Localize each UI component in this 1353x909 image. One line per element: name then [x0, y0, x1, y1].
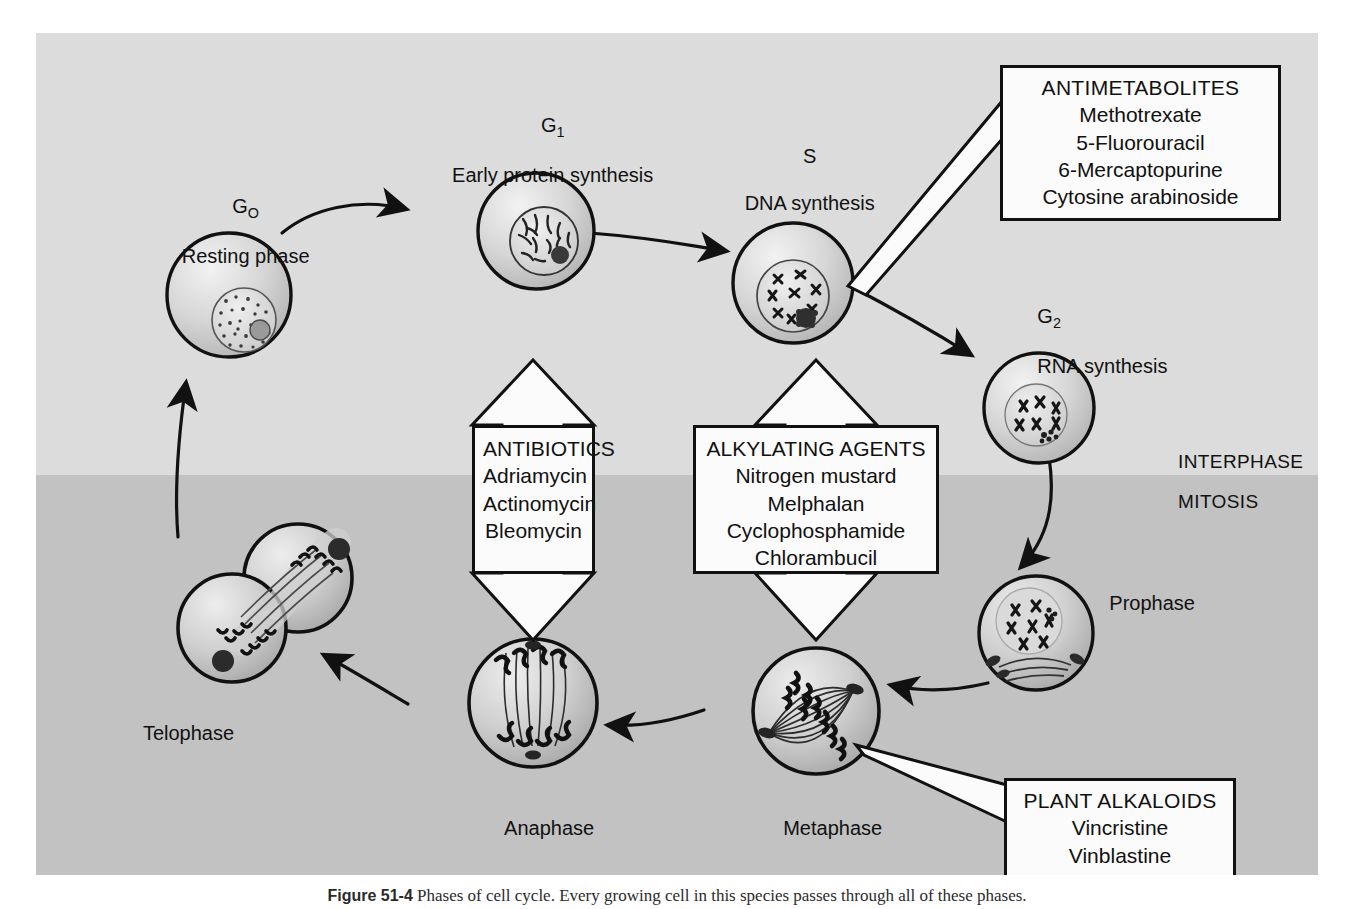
figure-caption-label: Figure 51-4 — [327, 887, 412, 904]
callout-plant-alkaloids-item-1: Vinblastine — [1019, 842, 1221, 869]
figure-caption-text: Phases of cell cycle. Every growing cell… — [417, 886, 1026, 905]
figure-caption: Figure 51-4 Phases of cell cycle. Every … — [36, 886, 1318, 906]
label-phase-g0: GO Resting phase — [148, 171, 309, 292]
callout-antimetabolites-item-1: 5-Fluorouracil — [1015, 129, 1266, 156]
label-phase-metaphase: Metaphase — [750, 793, 882, 864]
cell-s — [733, 223, 853, 343]
label-g2-name: RNA synthesis — [1037, 355, 1167, 377]
callout-plant-alkaloids-title: PLANT ALKALOIDS — [1019, 787, 1221, 814]
callout-antimetabolites-item-0: Methotrexate — [1015, 101, 1266, 128]
label-phase-prophase: Prophase — [1076, 568, 1195, 639]
callout-alkylating-agents-item-2: Cyclophosphamide — [704, 517, 928, 544]
callout-antimetabolites-item-3: Cytosine arabinoside — [1015, 183, 1266, 210]
callout-plant-alkaloids-item-0: Vincristine — [1019, 814, 1221, 841]
callout-antimetabolites-title: ANTIMETABOLITES — [1015, 74, 1266, 101]
label-phase-g1: G1 Early protein synthesis — [419, 90, 654, 211]
label-g0-code: GO — [232, 195, 259, 217]
label-interphase: INTERPHASE — [1178, 451, 1303, 473]
callout-antimetabolites-item-2: 6-Mercaptopurine — [1015, 156, 1266, 183]
cell-telophase — [178, 524, 352, 682]
label-s-code: S — [803, 145, 816, 167]
callout-antimetabolites[interactable]: ANTIMETABOLITES Methotrexate 5-Fluoroura… — [1000, 65, 1281, 221]
label-phase-g2: G2 RNA synthesis — [1004, 281, 1167, 402]
label-phase-telophase: Telophase — [110, 698, 234, 769]
callout-alkylating-agents[interactable]: ALKYLATING AGENTS Nitrogen mustard Melph… — [755, 425, 878, 574]
callout-antibiotics-title: ANTIBIOTICS — [483, 435, 584, 462]
callout-plant-alkaloids[interactable]: PLANT ALKALOIDS Vincristine Vinblastine — [1004, 778, 1236, 875]
callout-alkylating-agents-item-0: Nitrogen mustard — [704, 462, 928, 489]
cell-anaphase — [469, 639, 597, 767]
label-g1-code: G1 — [541, 114, 565, 136]
label-mitosis: MITOSIS — [1178, 491, 1259, 513]
cell-metaphase — [753, 648, 879, 774]
label-g0-name: Resting phase — [182, 245, 310, 267]
label-g1-name: Early protein synthesis — [452, 164, 653, 186]
callout-alkylating-agents-item-3: Chlorambucil — [704, 544, 928, 571]
callout-alkylating-agents-title: ALKYLATING AGENTS — [704, 435, 928, 462]
callout-antibiotics[interactable]: ANTIBIOTICS Adriamycin Actinomycin Bleom… — [472, 425, 595, 574]
callout-antibiotics-item-0: Adriamycin — [483, 462, 584, 489]
callout-alkylating-agents-item-1: Melphalan — [704, 490, 928, 517]
label-phase-s: S DNA synthesis — [711, 121, 874, 239]
label-phase-anaphase: Anaphase — [472, 793, 594, 864]
cell-cycle-diagram: GO Resting phase G1 Early protein synthe… — [36, 33, 1318, 875]
figure-stage: GO Resting phase G1 Early protein synthe… — [0, 0, 1353, 909]
label-s-name: DNA synthesis — [745, 192, 875, 214]
label-g2-code: G2 — [1037, 305, 1061, 327]
callout-antibiotics-item-1: Actinomycin — [483, 490, 584, 517]
callout-antibiotics-item-2: Bleomycin — [483, 517, 584, 544]
